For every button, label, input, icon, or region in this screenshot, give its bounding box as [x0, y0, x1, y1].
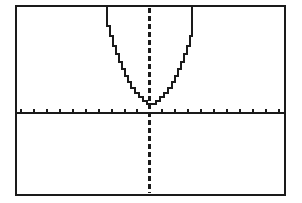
axes-group: [17, 8, 284, 193]
graph-canvas: [0, 0, 302, 203]
x-axis-ticks: [21, 109, 279, 113]
calculator-screen: [0, 0, 302, 203]
